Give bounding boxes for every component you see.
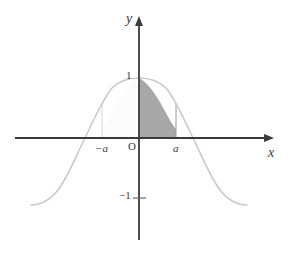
origin-label: O bbox=[128, 141, 136, 152]
plot-canvas bbox=[0, 0, 289, 255]
x-tick-label-neg-a: −a bbox=[95, 143, 108, 154]
math-figure: y x O −a a 1 −1 bbox=[0, 0, 289, 255]
x-tick-label-a: a bbox=[173, 143, 179, 154]
y-axis-label: y bbox=[126, 12, 132, 26]
x-axis-arrow-icon bbox=[264, 134, 274, 142]
x-axis-label: x bbox=[268, 146, 274, 160]
y-axis-arrow-icon bbox=[135, 16, 143, 26]
y-tick-label-one: 1 bbox=[126, 70, 132, 81]
y-tick-label-neg-one: −1 bbox=[119, 190, 131, 201]
